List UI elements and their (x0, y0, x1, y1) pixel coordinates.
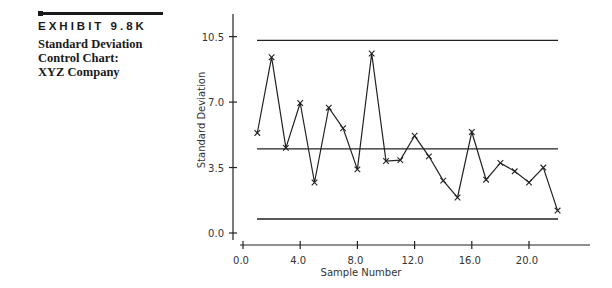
x-tick-label: 16.0 (459, 255, 481, 266)
x-tick-label: 8.0 (347, 255, 363, 266)
data-point-marker (440, 178, 446, 184)
data-point-marker (412, 133, 418, 139)
y-tick-label: 10.5 (202, 32, 224, 43)
data-point-marker (498, 160, 504, 166)
data-point-marker (512, 168, 518, 174)
y-tick-label: 7.0 (208, 97, 224, 108)
y-tick-label: 0.0 (208, 228, 224, 239)
x-axis-label: Sample Number (321, 267, 403, 278)
x-tick-label: 4.0 (290, 255, 306, 266)
y-tick-label: 3.5 (208, 163, 224, 174)
x-tick-label: 20.0 (516, 255, 538, 266)
control-chart: 0.03.57.010.50.04.08.012.016.020.0Sample… (0, 0, 612, 288)
data-point-marker (555, 208, 561, 214)
data-point-marker (526, 180, 532, 186)
data-point-marker (340, 125, 346, 131)
x-tick-label: 0.0 (233, 255, 249, 266)
data-point-marker (426, 154, 432, 160)
data-point-marker (541, 165, 547, 171)
y-axis-label: Standard Deviation (196, 72, 207, 169)
data-line (257, 54, 557, 211)
x-tick-label: 12.0 (401, 255, 423, 266)
